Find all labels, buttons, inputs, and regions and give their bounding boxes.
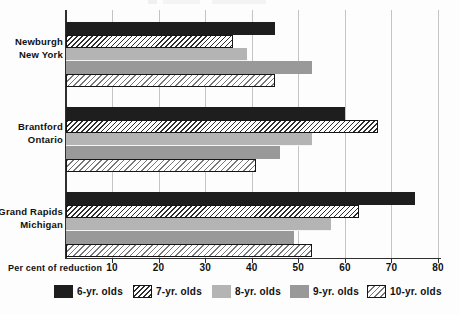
legend-swatch-10-yr-olds xyxy=(367,285,386,298)
bar-6-yr-olds-grand-rapids-michigan xyxy=(66,192,415,205)
legend-swatch-9-yr-olds xyxy=(290,285,309,298)
legend-swatch-7-yr-olds xyxy=(133,285,152,298)
legend-item-8-yr-olds: 8-yr. olds xyxy=(212,285,287,298)
legend-item-10-yr-olds: 10-yr. olds xyxy=(367,285,442,298)
x-axis-title: Per cent of reduction xyxy=(8,262,102,274)
bar-9-yr-olds-brantford-ontario xyxy=(66,146,280,159)
bar-7-yr-olds-newburgh-new-york xyxy=(66,35,234,48)
bar-9-yr-olds-newburgh-new-york xyxy=(66,61,313,74)
legend-label-6-yr-olds: 6-yr. olds xyxy=(77,285,123,298)
legend-label-9-yr-olds: 9-yr. olds xyxy=(313,285,359,298)
x-axis-line xyxy=(65,258,442,259)
legend-label-7-yr-olds: 7-yr. olds xyxy=(156,285,202,298)
legend-item-9-yr-olds: 9-yr. olds xyxy=(290,285,365,298)
x-tick-label-10: 10 xyxy=(97,262,127,274)
bar-10-yr-olds-grand-rapids-michigan xyxy=(66,244,313,257)
x-tick-label-40: 40 xyxy=(237,262,267,274)
bar-6-yr-olds-newburgh-new-york xyxy=(66,22,276,35)
x-tick-label-50: 50 xyxy=(283,262,313,274)
bar-7-yr-olds-brantford-ontario xyxy=(66,120,378,133)
category-label-new-york: New York xyxy=(19,48,63,61)
gridline-70 xyxy=(391,10,392,258)
cropped-text-remnant xyxy=(148,0,266,4)
x-tick-label-80: 80 xyxy=(423,262,453,274)
gridline-60 xyxy=(345,10,346,258)
x-tick-label-70: 70 xyxy=(376,262,406,274)
legend-label-8-yr-olds: 8-yr. olds xyxy=(235,285,281,298)
legend-swatch-6-yr-olds xyxy=(54,285,73,298)
bar-8-yr-olds-newburgh-new-york xyxy=(66,48,248,61)
x-tick-label-30: 30 xyxy=(190,262,220,274)
category-label-newburgh: Newburgh xyxy=(15,35,63,48)
bar-8-yr-olds-brantford-ontario xyxy=(66,133,313,146)
bar-10-yr-olds-brantford-ontario xyxy=(66,159,257,172)
bar-7-yr-olds-grand-rapids-michigan xyxy=(66,205,359,218)
category-label-brantford: Brantford xyxy=(18,120,63,133)
category-label-grand-rapids: Grand Rapids xyxy=(0,205,63,218)
bar-chart-figure: NewburghNew YorkBrantfordOntarioGrand Ra… xyxy=(0,0,460,314)
legend-label-10-yr-olds: 10-yr. olds xyxy=(390,285,442,298)
bar-10-yr-olds-newburgh-new-york xyxy=(66,74,276,87)
x-tick-label-60: 60 xyxy=(330,262,360,274)
bar-6-yr-olds-brantford-ontario xyxy=(66,107,345,120)
category-label-ontario: Ontario xyxy=(28,133,63,146)
bar-9-yr-olds-grand-rapids-michigan xyxy=(66,231,294,244)
legend-item-7-yr-olds: 7-yr. olds xyxy=(133,285,208,298)
legend-swatch-8-yr-olds xyxy=(212,285,231,298)
x-tick-label-20: 20 xyxy=(144,262,174,274)
category-label-michigan: Michigan xyxy=(20,218,63,231)
legend-item-6-yr-olds: 6-yr. olds xyxy=(54,285,129,298)
gridline-80 xyxy=(438,10,439,258)
bar-8-yr-olds-grand-rapids-michigan xyxy=(66,218,331,231)
